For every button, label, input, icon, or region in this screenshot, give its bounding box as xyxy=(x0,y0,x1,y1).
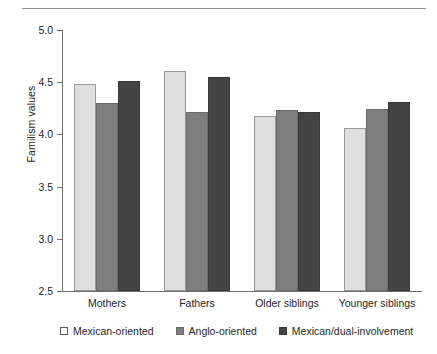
y-tick-label: 2.5 xyxy=(7,285,53,297)
x-axis-line xyxy=(62,291,422,292)
bar xyxy=(388,102,410,291)
bar xyxy=(74,84,96,291)
y-tick-label: 4.0 xyxy=(7,128,53,140)
legend-item[interactable]: Anglo-oriented xyxy=(176,325,257,337)
bar xyxy=(208,77,230,291)
legend-swatch-icon xyxy=(279,327,287,335)
legend-item[interactable]: Mexican-oriented xyxy=(60,325,154,337)
bar xyxy=(254,116,276,291)
figure: Familism values 2.53.03.54.04.55.0 Mothe… xyxy=(0,0,437,354)
legend-swatch-icon xyxy=(176,327,184,335)
y-tick-label: 4.5 xyxy=(7,76,53,88)
bar xyxy=(96,103,118,291)
bar xyxy=(276,110,298,291)
y-tick-label: 3.0 xyxy=(7,233,53,245)
x-tick-label: Fathers xyxy=(179,297,215,309)
bar xyxy=(298,112,320,291)
x-tick-label: Older siblings xyxy=(255,297,319,309)
legend-swatch-icon xyxy=(60,327,68,335)
bar xyxy=(164,71,186,291)
chart-legend: Mexican-orientedAnglo-orientedMexican/du… xyxy=(60,325,430,337)
plot-area xyxy=(62,30,422,291)
bar xyxy=(344,128,366,291)
y-tick-mark xyxy=(57,291,62,292)
legend-label: Mexican-oriented xyxy=(73,325,154,337)
legend-label: Anglo-oriented xyxy=(189,325,257,337)
legend-item[interactable]: Mexican/dual-involvement xyxy=(279,325,413,337)
bar xyxy=(118,81,140,291)
bar xyxy=(186,112,208,291)
bar xyxy=(366,109,388,291)
x-tick-label: Younger siblings xyxy=(339,297,416,309)
legend-label: Mexican/dual-involvement xyxy=(292,325,413,337)
y-tick-label: 3.5 xyxy=(7,181,53,193)
y-tick-label: 5.0 xyxy=(7,24,53,36)
x-tick-label: Mothers xyxy=(88,297,126,309)
top-rule-divider xyxy=(22,8,426,9)
